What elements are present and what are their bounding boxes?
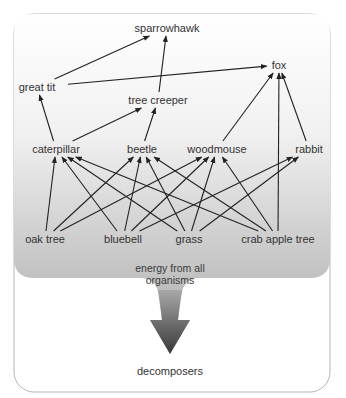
node-crab-apple-tree: crab apple tree bbox=[241, 234, 314, 245]
node-great-tit: great tit bbox=[19, 82, 56, 93]
node-oak-tree: oak tree bbox=[25, 234, 65, 245]
node-fox: fox bbox=[272, 60, 287, 71]
node-caterpillar: caterpillar bbox=[32, 144, 80, 155]
node-bluebell: bluebell bbox=[104, 234, 142, 245]
energy-caption-line2: organisms bbox=[115, 274, 225, 286]
food-web-diagram: sparrowhawkfoxgreat tittree creepercater… bbox=[0, 0, 346, 398]
node-woodmouse: woodmouse bbox=[187, 144, 246, 155]
node-sparrowhawk: sparrowhawk bbox=[135, 23, 200, 34]
energy-caption-line1: energy from all bbox=[115, 262, 225, 274]
decomposers-label: decomposers bbox=[137, 366, 203, 377]
energy-caption: energy from all organisms bbox=[115, 262, 225, 286]
node-tree-creeper: tree creeper bbox=[128, 95, 187, 106]
food-web-canvas bbox=[0, 0, 346, 398]
node-beetle: beetle bbox=[127, 144, 157, 155]
node-grass: grass bbox=[176, 234, 203, 245]
node-rabbit: rabbit bbox=[295, 144, 323, 155]
